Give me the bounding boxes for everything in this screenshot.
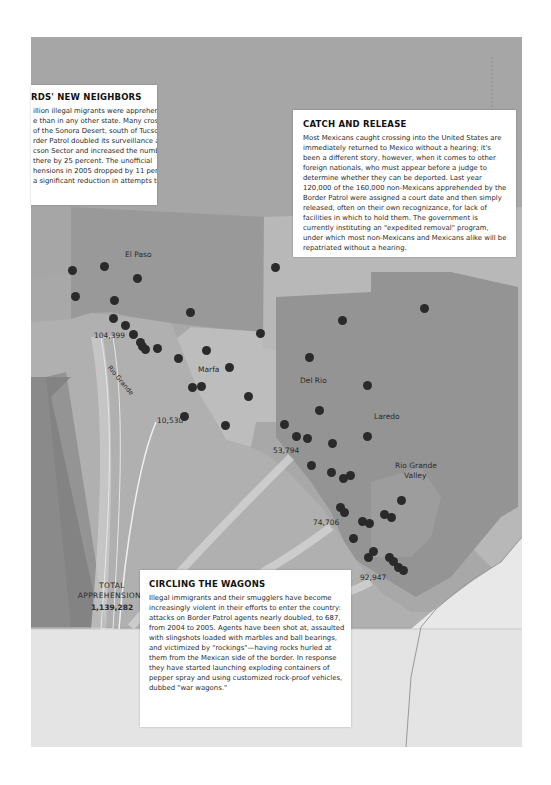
border-station-dot — [349, 534, 358, 543]
neighbors-line: cson Sector and increased the number — [33, 146, 151, 156]
catch-release-title: Catch and Release — [303, 119, 509, 129]
sector-label: Del Rio — [300, 376, 327, 385]
border-station-dot — [305, 353, 314, 362]
neighbors-body: illion illegal migrants were apprehended… — [33, 106, 151, 186]
border-station-dot — [328, 439, 337, 448]
border-station-dot — [129, 330, 138, 339]
border-station-dot — [221, 421, 230, 430]
apprehension-count: 10,530 — [157, 416, 183, 425]
border-station-dot — [307, 461, 316, 470]
border-station-dot — [244, 392, 253, 401]
border-station-dot — [327, 468, 336, 477]
apprehension-count: 53,794 — [273, 446, 299, 455]
border-station-dot — [380, 510, 389, 519]
neighbors-line: of the Sonora Desert, south of Tucson. — [33, 126, 151, 136]
neighbors-title: rds' new neighbors — [31, 92, 151, 102]
border-station-dot — [340, 508, 349, 517]
border-station-dot — [197, 382, 206, 391]
neighbors-line: illion illegal migrants were apprehended — [33, 106, 151, 116]
sector-label: Valley — [404, 471, 426, 480]
border-station-dot — [100, 262, 109, 271]
border-station-dot — [365, 519, 374, 528]
border-station-dot — [292, 432, 301, 441]
border-station-dot — [399, 566, 408, 575]
neighbors-line: a significant reduction in attempts to — [33, 176, 151, 186]
border-station-dot — [186, 308, 195, 317]
sector-label: Marfa — [198, 365, 219, 374]
border-station-dot — [271, 263, 280, 272]
sector-label: Rio Grande — [395, 461, 437, 470]
catch-release-body: Most Mexicans caught crossing into the U… — [303, 133, 509, 253]
apprehension-count: 74,706 — [313, 518, 339, 527]
border-station-dot — [153, 344, 162, 353]
border-station-dot — [121, 321, 130, 330]
border-station-dot — [363, 432, 372, 441]
neighbors-callout: rds' new neighbors illion illegal migran… — [31, 85, 157, 205]
border-station-dot — [110, 296, 119, 305]
border-station-dot — [109, 314, 118, 323]
border-station-dot — [174, 354, 183, 363]
border-station-dot — [256, 329, 265, 338]
border-station-dot — [364, 553, 373, 562]
border-station-dot — [397, 496, 406, 505]
apprehension-count: 104,399 — [94, 331, 125, 340]
border-station-dot — [339, 474, 348, 483]
neighbors-line: rder Patrol doubled its surveillance air… — [33, 136, 151, 146]
apprehension-count: 92,947 — [360, 573, 386, 582]
circling-wagons-body: Illegal immigrants and their smugglers h… — [149, 593, 345, 693]
border-station-dot — [225, 363, 234, 372]
catch-release-callout: Catch and Release Most Mexicans caught c… — [293, 110, 516, 257]
neighbors-line: hensions in 2005 dropped by 11 per- — [33, 166, 151, 176]
border-station-dot — [338, 316, 347, 325]
neighbors-line: e than in any other state. Many cross — [33, 116, 151, 126]
border-station-dot — [133, 274, 142, 283]
border-station-dot — [303, 434, 312, 443]
sector-label: El Paso — [125, 250, 151, 259]
border-station-dot — [71, 292, 80, 301]
border-station-dot — [202, 346, 211, 355]
neighbors-line: there by 25 percent. The unofficial — [33, 156, 151, 166]
border-station-dot — [420, 304, 429, 313]
border-station-dot — [141, 345, 150, 354]
border-station-dot — [280, 420, 289, 429]
border-station-dot — [315, 406, 324, 415]
circling-wagons-title: Circling the Wagons — [149, 579, 345, 589]
border-station-dot — [363, 381, 372, 390]
sector-label: Laredo — [374, 412, 400, 421]
border-station-dot — [188, 383, 197, 392]
border-station-dot — [68, 266, 77, 275]
circling-wagons-callout: Circling the Wagons Illegal immigrants a… — [140, 570, 351, 727]
